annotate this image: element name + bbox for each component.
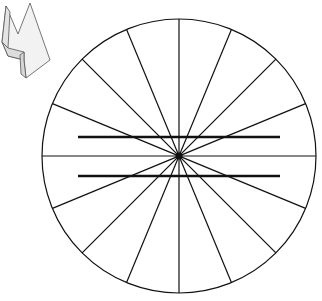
center-dot <box>176 153 183 160</box>
3d-arrow-icon <box>2 3 50 78</box>
hering-illusion-figure <box>0 0 322 301</box>
